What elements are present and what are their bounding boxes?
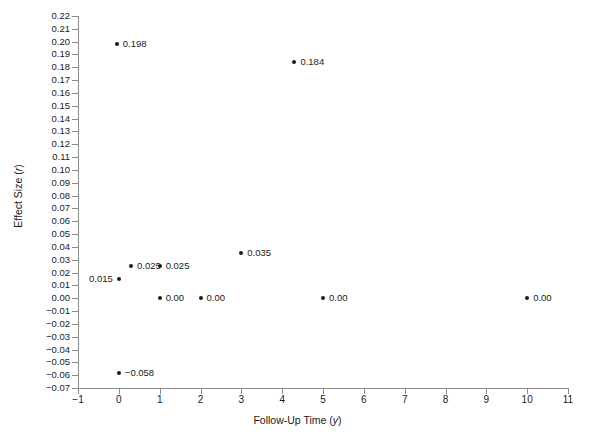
y-tick-mark xyxy=(72,273,78,274)
y-tick-mark xyxy=(72,298,78,299)
y-tick-label-wrap: 0.02 xyxy=(22,268,70,278)
y-tick-mark xyxy=(72,311,78,312)
data-point xyxy=(158,296,162,300)
y-tick-mark xyxy=(72,375,78,376)
y-tick-mark xyxy=(72,80,78,81)
y-tick-mark xyxy=(72,221,78,222)
y-tick-label-wrap: 0.01 xyxy=(22,280,70,290)
y-tick-label-wrap: 0.07 xyxy=(22,203,70,213)
y-tick-mark xyxy=(72,119,78,120)
y-tick-label: 0.05 xyxy=(30,229,70,239)
data-point xyxy=(158,264,162,268)
y-tick-mark xyxy=(72,93,78,94)
y-tick-mark xyxy=(72,324,78,325)
data-point-label: 0.00 xyxy=(207,293,226,303)
data-point-label: 0.025 xyxy=(166,261,190,271)
data-point-label: −0.058 xyxy=(125,368,154,378)
y-tick-label-wrap: 0.04 xyxy=(22,242,70,252)
x-tick-label: 6 xyxy=(352,394,376,406)
y-tick-label: 0.04 xyxy=(30,242,70,252)
y-tick-label-wrap: −0.01 xyxy=(22,306,70,316)
y-tick-mark xyxy=(72,29,78,30)
y-tick-label-wrap: 0.00 xyxy=(22,293,70,303)
y-tick-label: −0.05 xyxy=(30,357,70,367)
y-tick-label-wrap: 0.21 xyxy=(22,24,70,34)
y-tick-label: 0.20 xyxy=(30,37,70,47)
data-point-label: 0.00 xyxy=(533,293,552,303)
x-tick-label: 9 xyxy=(474,394,498,406)
y-tick-label: 0.08 xyxy=(30,191,70,201)
y-tick-label-wrap: −0.04 xyxy=(22,345,70,355)
y-tick-mark xyxy=(72,337,78,338)
y-tick-mark xyxy=(72,362,78,363)
y-tick-mark xyxy=(72,42,78,43)
y-tick-label-wrap: 0.12 xyxy=(22,139,70,149)
y-tick-label-wrap: 0.19 xyxy=(22,49,70,59)
y-tick-label: 0.14 xyxy=(30,114,70,124)
y-tick-label: 0.11 xyxy=(30,152,70,162)
data-point xyxy=(525,296,529,300)
y-tick-label-wrap: 0.16 xyxy=(22,88,70,98)
y-tick-label-wrap: −0.06 xyxy=(22,370,70,380)
x-tick-label: 4 xyxy=(270,394,294,406)
y-tick-label: 0.09 xyxy=(30,178,70,188)
y-tick-label-wrap: 0.09 xyxy=(22,178,70,188)
data-point-label: 0.00 xyxy=(166,293,185,303)
y-tick-label: 0.01 xyxy=(30,280,70,290)
y-tick-label-wrap: 0.15 xyxy=(22,101,70,111)
y-tick-label: 0.03 xyxy=(30,255,70,265)
data-point xyxy=(239,251,243,255)
y-tick-label-wrap: 0.05 xyxy=(22,229,70,239)
y-tick-mark xyxy=(72,208,78,209)
x-axis-title-text: Follow-Up Time (y) xyxy=(253,414,341,426)
y-tick-label-wrap: 0.08 xyxy=(22,191,70,201)
x-tick-label: 8 xyxy=(434,394,458,406)
y-tick-label-wrap: 0.18 xyxy=(22,62,70,72)
data-point xyxy=(129,264,133,268)
data-point xyxy=(292,60,296,64)
x-tick-label: 2 xyxy=(189,394,213,406)
data-point xyxy=(199,296,203,300)
y-tick-label: −0.02 xyxy=(30,319,70,329)
data-point xyxy=(321,296,325,300)
y-tick-label-wrap: 0.11 xyxy=(22,152,70,162)
y-tick-label: 0.19 xyxy=(30,49,70,59)
data-point-label: 0.015 xyxy=(89,274,113,284)
y-tick-label: −0.06 xyxy=(30,370,70,380)
data-point xyxy=(117,277,121,281)
y-tick-label: −0.04 xyxy=(30,345,70,355)
y-tick-label-wrap: −0.05 xyxy=(22,357,70,367)
y-tick-mark xyxy=(72,54,78,55)
data-point xyxy=(117,371,121,375)
y-tick-mark xyxy=(72,183,78,184)
y-tick-label: 0.12 xyxy=(30,139,70,149)
y-tick-mark xyxy=(72,234,78,235)
y-tick-label-wrap: −0.02 xyxy=(22,319,70,329)
y-tick-label: 0.13 xyxy=(30,126,70,136)
y-tick-label-wrap: −0.07 xyxy=(22,383,70,393)
scatter-plot: 0.220.210.200.190.180.170.160.150.140.13… xyxy=(0,0,595,445)
y-tick-label: 0.07 xyxy=(30,203,70,213)
y-tick-mark xyxy=(72,16,78,17)
y-tick-label-wrap: 0.22 xyxy=(22,11,70,21)
y-tick-mark xyxy=(72,196,78,197)
y-tick-label: −0.03 xyxy=(30,332,70,342)
y-tick-mark xyxy=(72,67,78,68)
y-tick-label-wrap: 0.03 xyxy=(22,255,70,265)
y-tick-label: 0.00 xyxy=(30,293,70,303)
x-tick-label: 1 xyxy=(148,394,172,406)
y-axis-title-text: Effect Size (r) xyxy=(12,164,24,227)
y-tick-label-wrap: 0.14 xyxy=(22,114,70,124)
y-tick-label-wrap: 0.13 xyxy=(22,126,70,136)
data-point-label: 0.198 xyxy=(123,39,147,49)
y-tick-mark xyxy=(72,170,78,171)
y-tick-mark xyxy=(72,131,78,132)
y-tick-mark xyxy=(72,157,78,158)
x-tick-label: 5 xyxy=(311,394,335,406)
x-tick-label: 10 xyxy=(515,394,539,406)
y-tick-label: −0.01 xyxy=(30,306,70,316)
y-tick-label: 0.02 xyxy=(30,268,70,278)
y-tick-label-wrap: 0.06 xyxy=(22,216,70,226)
y-tick-label-wrap: 0.17 xyxy=(22,75,70,85)
y-axis-title: Effect Size (r) xyxy=(12,126,24,266)
